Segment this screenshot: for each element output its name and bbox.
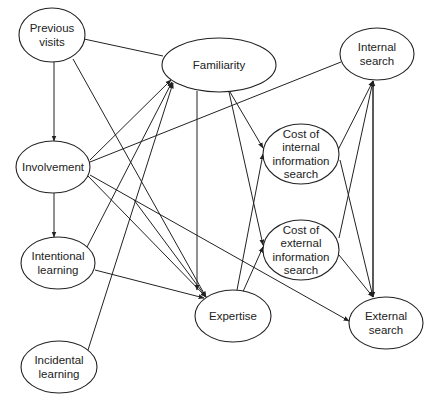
node-label: internal — [282, 141, 320, 153]
node-cost-internal: Cost ofinternalinformationsearch — [263, 124, 339, 184]
node-previous-visits: Previousvisits — [19, 8, 85, 62]
edge-intentional-learning-to-expertise — [95, 270, 204, 298]
node-label: search — [284, 168, 319, 180]
node-expertise: Expertise — [195, 290, 271, 342]
path-model-diagram: PreviousvisitsFamiliarityInternalsearchI… — [0, 0, 441, 408]
node-label: visits — [39, 36, 65, 48]
node-involvement: Involvement — [16, 141, 90, 193]
edge-incidental-learning-to-familiarity — [88, 83, 173, 350]
node-label: Expertise — [209, 310, 257, 322]
edge-expertise-to-cost-internal — [237, 154, 263, 290]
node-label: information — [273, 155, 330, 167]
node-familiarity: Familiarity — [162, 38, 276, 92]
node-cost-external: Cost ofexternalinformationsearch — [263, 220, 339, 280]
node-label: Involvement — [22, 161, 85, 173]
node-label: search — [360, 55, 395, 67]
edge-cost-external-to-internal-search — [339, 81, 373, 238]
node-label: Intentional — [31, 250, 84, 262]
node-label: External — [365, 310, 407, 322]
node-label: Previous — [30, 22, 75, 34]
node-label: external — [281, 237, 322, 249]
node-label: Cost of — [283, 128, 320, 140]
node-external-search: Externalsearch — [349, 297, 423, 349]
node-label: Familiarity — [193, 59, 246, 71]
node-label: search — [284, 264, 319, 276]
node-label: Cost of — [283, 224, 320, 236]
node-intentional-learning: Intentionallearning — [21, 237, 95, 289]
node-label: Internal — [358, 41, 396, 53]
node-internal-search: Internalsearch — [340, 28, 414, 80]
edge-previous-visits-to-familiarity — [84, 39, 163, 56]
edge-involvement-to-familiarity — [90, 80, 171, 160]
node-incidental-learning: Incidentallearning — [21, 341, 97, 393]
edge-involvement-to-expertise — [88, 176, 206, 297]
node-label: learning — [39, 368, 80, 380]
edge-cost-internal-to-internal-search — [338, 81, 373, 150]
node-label: learning — [38, 264, 79, 276]
node-label: information — [273, 251, 330, 263]
node-label: search — [369, 324, 404, 336]
edge-familiarity-to-cost-external — [229, 92, 263, 245]
node-label: Incidental — [34, 354, 83, 366]
